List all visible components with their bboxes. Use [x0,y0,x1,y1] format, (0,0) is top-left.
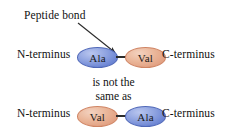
comparison-text-line2: same as [0,90,227,104]
row2-residue-val-label: Val [78,107,117,128]
comparison-text: is not the same as [0,76,227,103]
row1-residue-ala-label: Ala [78,48,117,69]
row2-residue-val: Val [77,106,118,127]
row2-residue-ala: Ala [125,106,166,127]
comparison-text-line1: is not the [0,76,227,90]
row2-c-terminus-label: C-terminus [162,107,215,120]
peptide-bond-diagram: Peptide bond N-terminus Ala Val C-termin… [0,0,227,138]
row1-residue-val: Val [125,47,166,68]
row1-n-terminus-label: N-terminus [17,48,70,61]
row2-residue-ala-label: Ala [126,107,165,128]
row1-residue-val-label: Val [126,48,165,69]
row1-c-terminus-label: C-terminus [162,48,215,61]
peptide-bond-annotation-label: Peptide bond [24,9,86,21]
row2-n-terminus-label: N-terminus [17,107,70,120]
row1-residue-ala: Ala [77,47,118,68]
